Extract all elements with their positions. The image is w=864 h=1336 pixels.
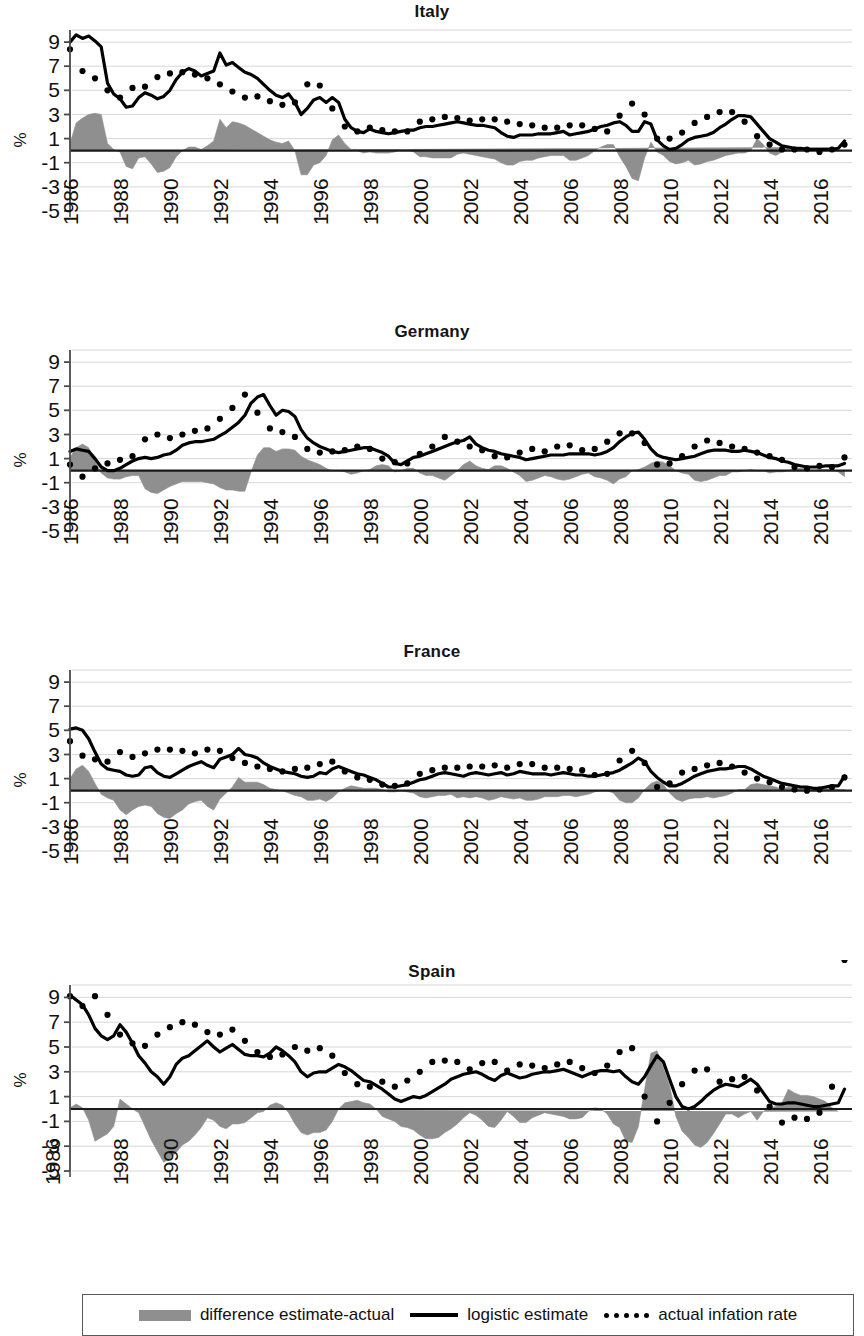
svg-text:3: 3: [48, 743, 60, 766]
svg-text:2012: 2012: [709, 818, 732, 865]
area-swatch-icon: [139, 1310, 191, 1321]
svg-text:1998: 1998: [359, 818, 382, 865]
svg-text:2006: 2006: [559, 1138, 582, 1185]
svg-text:-5: -5: [41, 839, 60, 862]
svg-text:2006: 2006: [559, 178, 582, 225]
svg-text:2006: 2006: [559, 818, 582, 865]
svg-text:2014: 2014: [759, 1138, 782, 1185]
svg-text:2002: 2002: [459, 818, 482, 865]
chart-svg-germany: -5-3-113579%1986198819901992199419961998…: [0, 320, 864, 640]
svg-text:2016: 2016: [809, 498, 832, 545]
panel-germany: Germany -5-3-113579%19861988199019921994…: [0, 320, 864, 640]
svg-text:2004: 2004: [509, 818, 532, 865]
svg-text:5: 5: [48, 398, 60, 421]
svg-text:-1: -1: [41, 151, 60, 174]
svg-text:1992: 1992: [209, 818, 232, 865]
svg-text:1986: 1986: [59, 178, 82, 225]
svg-text:2012: 2012: [709, 1138, 732, 1185]
svg-text:2008: 2008: [609, 1138, 632, 1185]
chart-svg-spain: -5-3-113579%1986198819901992199419961998…: [0, 960, 864, 1280]
svg-text:-3: -3: [41, 815, 60, 838]
svg-text:2008: 2008: [609, 178, 632, 225]
svg-text:1986: 1986: [41, 1138, 64, 1185]
svg-text:1: 1: [48, 767, 60, 790]
svg-text:1998: 1998: [359, 178, 382, 225]
svg-text:%: %: [11, 1072, 30, 1087]
svg-text:1986: 1986: [59, 498, 82, 545]
svg-text:2002: 2002: [459, 498, 482, 545]
svg-text:2004: 2004: [509, 1138, 532, 1185]
svg-text:2010: 2010: [659, 818, 682, 865]
svg-text:2006: 2006: [559, 498, 582, 545]
svg-text:1990: 1990: [159, 178, 182, 225]
svg-text:-1: -1: [41, 1109, 60, 1132]
svg-text:1994: 1994: [259, 178, 282, 225]
svg-text:2010: 2010: [659, 1138, 682, 1185]
svg-text:2002: 2002: [459, 1138, 482, 1185]
svg-text:2014: 2014: [759, 818, 782, 865]
svg-text:5: 5: [48, 1035, 60, 1058]
svg-text:2000: 2000: [409, 1138, 432, 1185]
svg-text:2000: 2000: [409, 498, 432, 545]
svg-text:2010: 2010: [659, 178, 682, 225]
svg-text:1: 1: [48, 1085, 60, 1108]
svg-text:2000: 2000: [409, 178, 432, 225]
svg-text:1994: 1994: [259, 1138, 282, 1185]
svg-text:1994: 1994: [259, 498, 282, 545]
svg-text:1996: 1996: [309, 1138, 332, 1185]
svg-text:5: 5: [48, 718, 60, 741]
svg-text:2014: 2014: [759, 498, 782, 545]
svg-text:2012: 2012: [709, 178, 732, 225]
svg-text:2016: 2016: [809, 818, 832, 865]
svg-text:7: 7: [48, 374, 60, 397]
svg-text:1990: 1990: [159, 1138, 182, 1185]
legend-label-actual: actual infation rate: [658, 1305, 797, 1325]
solid-line-swatch-icon: [410, 1313, 458, 1317]
svg-text:2016: 2016: [809, 1138, 832, 1185]
svg-text:1996: 1996: [309, 818, 332, 865]
chart-svg-france: -5-3-113579%1986198819901992199419961998…: [0, 640, 864, 960]
legend-item-logistic: logistic estimate: [410, 1305, 588, 1325]
svg-text:9: 9: [48, 670, 60, 693]
svg-text:-3: -3: [41, 495, 60, 518]
svg-text:2004: 2004: [509, 178, 532, 225]
svg-text:1: 1: [48, 447, 60, 470]
svg-text:-3: -3: [41, 175, 60, 198]
panel-spain: Spain -5-3-113579%1986198819901992199419…: [0, 960, 864, 1280]
svg-text:9: 9: [48, 350, 60, 373]
svg-text:%: %: [11, 772, 30, 787]
svg-text:%: %: [11, 452, 30, 467]
svg-text:9: 9: [48, 985, 60, 1008]
svg-text:1992: 1992: [209, 498, 232, 545]
svg-text:7: 7: [48, 694, 60, 717]
svg-text:2014: 2014: [759, 178, 782, 225]
svg-text:1986: 1986: [59, 818, 82, 865]
svg-text:-5: -5: [41, 519, 60, 542]
svg-text:1: 1: [48, 127, 60, 150]
svg-text:5: 5: [48, 78, 60, 101]
svg-text:1988: 1988: [109, 1138, 132, 1185]
svg-text:7: 7: [48, 1010, 60, 1033]
legend-label-logistic: logistic estimate: [467, 1305, 588, 1325]
svg-text:9: 9: [48, 30, 60, 53]
svg-text:-1: -1: [41, 471, 60, 494]
svg-text:1996: 1996: [309, 498, 332, 545]
svg-text:-1: -1: [41, 791, 60, 814]
svg-text:1994: 1994: [259, 818, 282, 865]
svg-text:1992: 1992: [209, 1138, 232, 1185]
svg-text:2008: 2008: [609, 498, 632, 545]
svg-text:1990: 1990: [159, 818, 182, 865]
svg-text:2004: 2004: [509, 498, 532, 545]
svg-text:-5: -5: [41, 199, 60, 222]
svg-text:3: 3: [48, 103, 60, 126]
svg-text:2002: 2002: [459, 178, 482, 225]
svg-text:1988: 1988: [109, 178, 132, 225]
svg-text:1998: 1998: [359, 498, 382, 545]
svg-text:1996: 1996: [309, 178, 332, 225]
legend-item-actual: actual infation rate: [604, 1305, 797, 1325]
panel-france: France -5-3-113579%198619881990199219941…: [0, 640, 864, 960]
svg-text:2016: 2016: [809, 178, 832, 225]
svg-text:7: 7: [48, 54, 60, 77]
svg-text:2008: 2008: [609, 818, 632, 865]
